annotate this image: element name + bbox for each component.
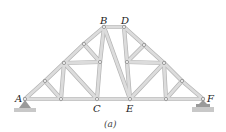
member-t3-m1: [84, 44, 100, 62]
label-B: B: [99, 15, 107, 26]
member-t5-b4: [164, 63, 166, 99]
joint-E: [128, 97, 131, 100]
joint-b1: [59, 97, 62, 100]
joint-A: [23, 97, 26, 100]
joint-t3: [82, 42, 85, 45]
joint-m2: [125, 60, 128, 63]
joint-t6: [180, 79, 183, 82]
joint-t4: [142, 43, 145, 46]
joint-C: [95, 97, 98, 100]
truss-members: [25, 27, 203, 99]
joint-F: [201, 97, 204, 100]
member-t2-m1: [64, 62, 100, 63]
member-t2-t3: [64, 44, 84, 63]
member-t1-b1: [45, 81, 61, 99]
joint-t5: [162, 61, 165, 64]
label-F: F: [206, 93, 215, 104]
joint-t2: [62, 61, 65, 64]
truss-diagram: A B C D E F (a): [0, 0, 226, 132]
member-t5-E: [130, 63, 164, 99]
member-A-t1: [25, 81, 45, 99]
joint-b4: [164, 97, 167, 100]
member-m2-t5: [127, 62, 164, 63]
member-t4-t5: [144, 45, 164, 63]
label-E: E: [125, 103, 134, 114]
member-t6-b4: [166, 81, 182, 99]
member-t6-F: [182, 81, 203, 99]
label-D: D: [120, 15, 129, 26]
member-t4-m2: [127, 45, 144, 62]
label-C: C: [93, 103, 101, 114]
member-t2-C: [64, 63, 97, 99]
figure-caption: (a): [104, 119, 117, 129]
roller-F: [196, 104, 210, 107]
ground-hatch-A: [14, 108, 36, 112]
label-A: A: [14, 93, 22, 104]
joint-m1: [98, 60, 101, 63]
ground-hatch-F: [192, 107, 214, 112]
joint-t1: [43, 79, 46, 82]
